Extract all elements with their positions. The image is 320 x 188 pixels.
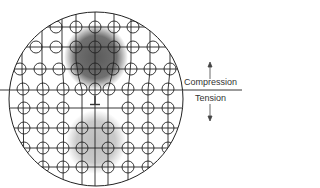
compression-region: [64, 24, 128, 90]
edge-dislocation-icon: [90, 96, 100, 105]
compression-label: Compression: [184, 77, 237, 87]
tension-label: Tension: [195, 93, 226, 103]
tension-region: [66, 110, 126, 174]
tension-arrow-icon: [208, 104, 212, 121]
